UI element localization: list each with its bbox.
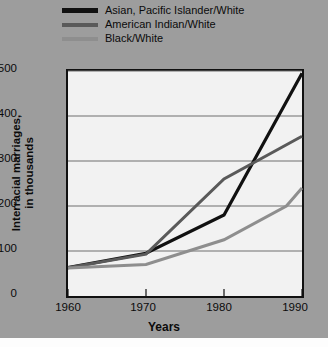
gridlines	[68, 71, 302, 251]
x-tick-label-1990: 1990	[272, 302, 318, 313]
series-line-1	[68, 73, 302, 267]
chart-figure: Asian, Pacific Islander/White American I…	[0, 0, 328, 338]
y-tick-label-500: 500	[0, 63, 17, 74]
legend-item-black-white: Black/White	[62, 33, 244, 44]
legend-item-asian-pacific-islander-white: Asian, Pacific Islander/White	[62, 5, 244, 16]
series-line-3	[68, 188, 302, 268]
legend-label: American Indian/White	[105, 19, 216, 30]
y-tick-label-100: 100	[0, 243, 17, 254]
y-tick-label-200: 200	[0, 198, 17, 209]
x-tick-marks	[68, 289, 302, 296]
x-tick-label-1970: 1970	[120, 302, 166, 313]
chart-lines-svg	[66, 69, 304, 298]
data-series-lines	[68, 73, 302, 268]
y-tick-label-0: 0	[0, 288, 17, 299]
x-tick-label-1960: 1960	[45, 302, 91, 313]
legend-swatch-line-icon	[62, 8, 98, 13]
x-tick-label-1980: 1980	[196, 302, 242, 313]
y-tick-label-400: 400	[0, 108, 17, 119]
legend-label: Asian, Pacific Islander/White	[105, 5, 244, 16]
bottom-margin-strip	[0, 338, 328, 347]
y-tick-label-300: 300	[0, 153, 17, 164]
legend-swatch-line-icon	[62, 37, 98, 41]
legend-swatch-line-icon	[62, 23, 98, 27]
legend-label: Black/White	[105, 33, 163, 44]
series-line-2	[68, 136, 302, 267]
plot-area-wrapper	[66, 69, 304, 298]
chart-legend: Asian, Pacific Islander/White American I…	[62, 5, 244, 44]
x-axis-title: Years	[0, 320, 328, 334]
legend-item-american-indian-white: American Indian/White	[62, 19, 244, 30]
